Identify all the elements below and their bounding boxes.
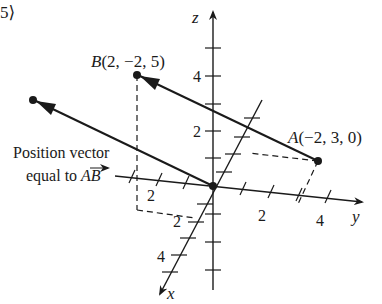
- x-axis-label: x: [166, 284, 175, 303]
- point-a: [314, 157, 322, 165]
- y-axis-label: y: [350, 207, 360, 226]
- z-axis: z 4 2: [191, 8, 221, 290]
- origin-point: [209, 182, 217, 190]
- header-fragment: 5⟩: [0, 3, 15, 22]
- y-axis: 2 4 y 2: [115, 170, 362, 229]
- x-tick-4: 4: [157, 248, 165, 265]
- position-vector-endpoint: [29, 96, 37, 104]
- z-tick-4: 4: [193, 68, 201, 85]
- z-tick-2: 2: [193, 123, 201, 140]
- annotation-line1: Position vector: [13, 144, 110, 161]
- vector-ab: [140, 76, 318, 161]
- point-a-label: A(−2, 3, 0): [287, 128, 362, 147]
- z-axis-label: z: [191, 8, 199, 27]
- y-tick-2: 2: [258, 207, 266, 224]
- y-tick-4: 4: [316, 212, 324, 229]
- vector-diagram: 5⟩ z 4 2 2 4 y 2: [0, 0, 382, 304]
- neg-y-tick-2: 2: [147, 187, 155, 204]
- position-vector-annotation: Position vector equal to AB: [13, 144, 110, 185]
- point-b-label: B(2, −2, 5): [91, 52, 165, 71]
- annotation-line2: equal to AB: [26, 167, 101, 185]
- point-b: [133, 71, 141, 79]
